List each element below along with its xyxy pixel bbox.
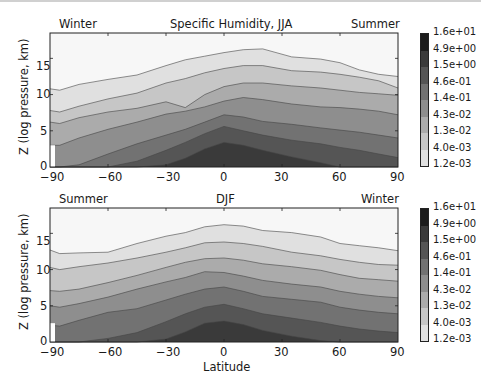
colorbar-segment	[421, 242, 428, 259]
right-season-label: Winter	[361, 192, 399, 206]
colorbar-segment	[421, 209, 428, 226]
colorbar-segment	[421, 325, 428, 342]
y-tick: 10	[36, 263, 51, 277]
x-tick: 90	[390, 345, 405, 359]
x-tick: 60	[332, 345, 347, 359]
colorbar-tick-label: 4.9e+00	[433, 218, 476, 229]
y-axis-label: Z (log pressure, km)	[17, 213, 31, 330]
panel-title: DJF	[216, 192, 235, 206]
x-tick: 30	[274, 345, 289, 359]
colorbar-tick-label: 1.6e+01	[433, 201, 476, 212]
colorbar-segment	[421, 226, 428, 243]
colorbar-tick-label: 4.0e-03	[433, 317, 471, 328]
colorbar-tick-label: 4.3e-02	[433, 284, 471, 295]
colorbar-segment	[421, 275, 428, 292]
colorbar-tick-label: 1.5e+00	[433, 234, 476, 245]
colorbar-tick-label: 1.3e-02	[433, 300, 471, 311]
colorbar-tick-label: 1.2e-03	[433, 333, 471, 344]
panel-djf: Summer DJF Winter Z (log pressure, km) 1…	[0, 0, 481, 190]
colorbar-tick-label: 4.6e-01	[433, 251, 471, 262]
colorbar-tick-label: 1.4e-01	[433, 267, 471, 278]
contour-svg	[50, 208, 398, 342]
colorbar-segment	[421, 259, 428, 276]
colorbar-segment	[421, 308, 428, 325]
contour-plot	[50, 208, 398, 342]
left-season-label: Summer	[59, 192, 108, 206]
y-tick: 5	[40, 299, 47, 313]
x-axis-label: Latitude	[203, 360, 250, 374]
x-tick: 0	[220, 345, 227, 359]
x-tick: −90	[40, 345, 64, 359]
x-tick: −30	[156, 345, 180, 359]
colorbar-segment	[421, 292, 428, 309]
colorbar	[420, 208, 429, 342]
x-tick: −60	[98, 345, 122, 359]
y-tick: 15	[36, 234, 51, 248]
